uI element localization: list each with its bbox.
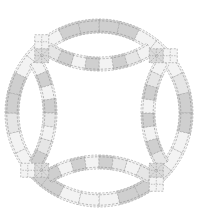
outer-ring (5, 19, 193, 207)
outer-ring-segment (78, 191, 99, 207)
outer-ring-segment (99, 19, 120, 35)
arc-band-bottom (44, 155, 154, 183)
arc-band-top (44, 43, 154, 71)
outer-ring-segment (177, 113, 193, 134)
cornerstone (149, 49, 177, 63)
arc-band-left (29, 58, 57, 168)
arc-band-right (141, 58, 169, 168)
quilt-canvas (0, 0, 199, 221)
inner-arc-bands (29, 43, 168, 182)
outer-ring-segment (5, 92, 21, 113)
cornerstone (149, 163, 163, 191)
quilt-diagram (0, 0, 199, 221)
cornerstone (35, 35, 49, 63)
cornerstone (21, 163, 49, 177)
